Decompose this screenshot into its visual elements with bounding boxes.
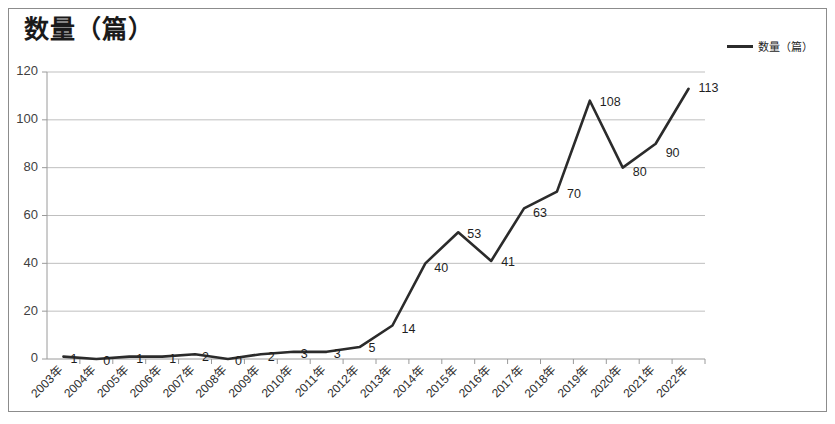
data-point-label: 14 xyxy=(401,322,415,336)
x-axis-tick-label: 2013年 xyxy=(357,363,394,400)
x-axis-tick-label: 2014年 xyxy=(390,363,427,400)
x-axis-tick-label: 2003年 xyxy=(28,363,65,400)
x-axis-tick-label: 2009年 xyxy=(226,363,263,400)
x-axis-tick-label: 2015年 xyxy=(423,363,460,400)
x-axis-tick-label: 2021年 xyxy=(621,363,658,400)
data-point-label: 2 xyxy=(268,350,275,364)
data-point-label: 0 xyxy=(103,354,110,368)
y-axis-group: 020406080100120 xyxy=(16,63,47,365)
y-axis-tick-label: 100 xyxy=(16,111,38,126)
y-axis-tick-label: 0 xyxy=(31,350,38,365)
data-point-label: 108 xyxy=(600,95,621,109)
x-axis-tick-label: 2004年 xyxy=(61,363,98,400)
data-point-label: 1 xyxy=(136,352,143,366)
data-point-label: 70 xyxy=(567,187,581,201)
data-point-label: 113 xyxy=(699,81,719,95)
data-point-label: 63 xyxy=(533,206,547,220)
chart-container: 数量（篇） 数量（篇） 020406080100120 2003年2004年20… xyxy=(0,0,835,424)
data-point-label: 3 xyxy=(334,347,341,361)
x-axis-tick-label: 2006年 xyxy=(127,363,164,400)
series-group xyxy=(63,89,688,359)
x-axis-tick-label: 2019年 xyxy=(555,363,592,400)
x-axis-tick-label: 2017年 xyxy=(489,363,526,400)
y-axis-tick-label: 80 xyxy=(24,159,38,174)
y-axis-tick-label: 40 xyxy=(24,255,38,270)
x-axis-tick-label: 2016年 xyxy=(456,363,493,400)
data-point-label: 53 xyxy=(467,227,481,241)
chart-plot-area: 020406080100120 2003年2004年2005年2006年2007… xyxy=(0,0,835,424)
data-point-label: 40 xyxy=(434,261,448,275)
data-point-label: 41 xyxy=(501,255,515,269)
data-point-label: 90 xyxy=(666,146,680,160)
x-axis-tick-label: 2011年 xyxy=(292,363,329,400)
data-point-label: 1 xyxy=(70,352,77,366)
x-axis-tick-label: 2010年 xyxy=(259,363,296,400)
series-line xyxy=(63,89,688,359)
data-point-label: 3 xyxy=(301,347,308,361)
data-point-label: 1 xyxy=(169,352,176,366)
x-axis-group: 2003年2004年2005年2006年2007年2008年2009年2010年… xyxy=(28,359,705,400)
x-axis-tick-label: 2007年 xyxy=(160,363,197,400)
data-point-label: 5 xyxy=(369,341,376,355)
y-axis-tick-label: 120 xyxy=(16,63,38,78)
x-axis-tick-label: 2022年 xyxy=(653,363,690,400)
y-axis-tick-label: 60 xyxy=(24,207,38,222)
data-point-label: 80 xyxy=(633,165,647,179)
x-axis-tick-label: 2008年 xyxy=(193,363,230,400)
x-axis-tick-label: 2005年 xyxy=(94,363,131,400)
data-labels-group: 10112023351440534163701088090113 xyxy=(70,81,718,368)
data-point-label: 0 xyxy=(235,354,242,368)
x-axis-tick-label: 2018年 xyxy=(522,363,559,400)
x-axis-tick-label: 2012年 xyxy=(324,363,361,400)
y-axis-tick-label: 20 xyxy=(24,303,38,318)
data-point-label: 2 xyxy=(202,350,209,364)
x-axis-tick-label: 2020年 xyxy=(588,363,625,400)
